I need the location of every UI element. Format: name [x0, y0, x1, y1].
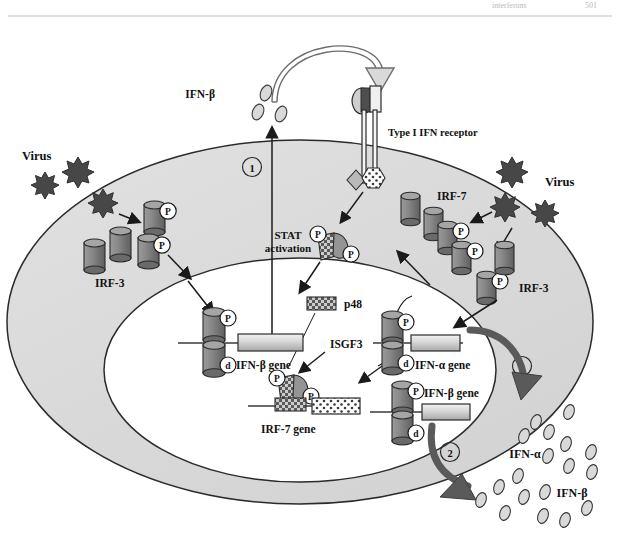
- dimer-label: d: [413, 429, 419, 439]
- step-1-label: 1: [249, 163, 254, 174]
- ifn-particle: [580, 499, 595, 517]
- ifn-alpha-gene-label: IFN-α gene: [415, 359, 470, 372]
- phospho-label: P: [472, 247, 478, 257]
- page-header: interferons 501: [8, 1, 612, 16]
- ifn-particle: [541, 447, 556, 465]
- ifn-particle: [498, 504, 513, 522]
- virus-particle: [62, 157, 94, 188]
- virus-particle: [531, 200, 559, 227]
- stat-activation-label-2: activation: [265, 242, 311, 254]
- receptor-bound-ligand: [361, 88, 370, 112]
- ifn-particle: [492, 478, 507, 496]
- isgf3-label: ISGF3: [330, 338, 363, 350]
- virus-particle: [496, 157, 528, 188]
- virus-right-label: Virus: [545, 175, 575, 189]
- ifn-alpha-output-label: IFN-α: [509, 447, 541, 461]
- receptor-label: Type I IFN receptor: [388, 127, 478, 138]
- ifn-particle: [542, 423, 557, 441]
- virus-particle-bound: [88, 189, 118, 218]
- ifn-beta-gene-box-right: [422, 404, 470, 420]
- ifn-beta-secreted-label: IFN-β: [185, 88, 215, 101]
- phospho-label: P: [413, 387, 419, 397]
- ifn-particle: [562, 457, 577, 475]
- phospho-label: P: [225, 314, 231, 324]
- phospho-label: P: [159, 241, 165, 251]
- ifn-particle: [511, 467, 526, 485]
- phospho-label: P: [458, 227, 464, 237]
- ifn-particle: [250, 102, 266, 121]
- p48-label: p48: [344, 298, 362, 311]
- phospho-label: P: [165, 207, 171, 217]
- irf7-cylinder: [401, 192, 420, 226]
- virus-particle: [31, 172, 59, 199]
- irf7-gene-label: IRF-7 gene: [261, 423, 316, 436]
- p48-block: [307, 297, 336, 310]
- irf3-cylinder: [495, 241, 514, 275]
- phospho-label: P: [348, 250, 354, 260]
- irf3-left-label: IRF-3: [95, 277, 125, 289]
- irf7-gene-box: [312, 398, 360, 414]
- ifn-beta-gene-right-label: IFN-β gene: [424, 387, 479, 400]
- dimer-label: d: [403, 359, 409, 369]
- phospho-label: P: [403, 318, 409, 328]
- phospho-label: P: [274, 374, 280, 384]
- irf3-cylinder: [84, 239, 105, 274]
- ifn-particle: [559, 435, 574, 453]
- ifn-particle: [562, 403, 577, 421]
- ifn-particle: [584, 443, 599, 461]
- ifn-beta-output-label: IFN-β: [557, 486, 588, 500]
- irf7-label: IRF-7: [437, 190, 467, 202]
- phospho-label: P: [315, 230, 321, 240]
- diagram-canvas: interferons 501 IFN-β 1 Type I IFN recep…: [0, 0, 620, 554]
- ifn-beta-gene-box: [238, 334, 303, 351]
- header-page-number: 501: [585, 1, 597, 10]
- ifn-alpha-gene-box: [411, 335, 460, 351]
- ifn-particle: [536, 507, 551, 525]
- header-title: interferons: [492, 1, 527, 10]
- ifn-beta-gene-left-label: IFN-β gene: [236, 359, 291, 372]
- ifn-particle: [273, 104, 289, 123]
- ifn-beta-output-group: IFN-β: [474, 467, 595, 529]
- dimer-label: d: [225, 361, 231, 371]
- irf3-cylinder: [110, 227, 131, 262]
- irf3-right-label: IRF-3: [519, 282, 549, 294]
- stat-activation-label-1: STAT: [274, 229, 302, 241]
- ifn-particle: [585, 463, 600, 481]
- ifn-particle: [474, 491, 489, 509]
- phospho-label: P: [497, 277, 503, 287]
- ifn-particle: [517, 488, 532, 506]
- ifn-particle: [538, 483, 553, 501]
- ifn-particle: [558, 511, 573, 529]
- p48-block: [275, 398, 306, 411]
- virus-left-label: Virus: [22, 149, 52, 163]
- receptor-head: [370, 86, 381, 112]
- step-2-lower-label: 2: [447, 448, 452, 459]
- virus-particle-bound: [490, 193, 520, 222]
